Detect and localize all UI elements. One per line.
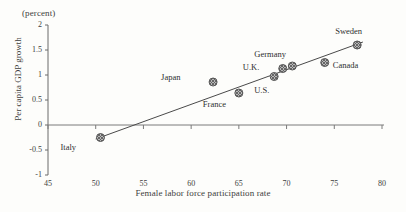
x-tick-label: 65 <box>226 179 252 188</box>
y-tick-label: 2 <box>16 20 42 29</box>
x-tick-label: 50 <box>83 179 109 188</box>
x-tick-label: 55 <box>130 179 156 188</box>
data-point <box>235 89 243 97</box>
point-label-us: U.S. <box>254 85 269 95</box>
y-tick-label: 1.5 <box>16 45 42 54</box>
x-tick-label: 80 <box>369 179 395 188</box>
y-tick-label: 0.5 <box>16 95 42 104</box>
data-point <box>96 134 104 142</box>
x-tick-label: 60 <box>178 179 204 188</box>
data-points <box>96 41 361 142</box>
y-tick-label: 1 <box>16 70 42 79</box>
point-label-japan: Japan <box>161 72 180 82</box>
y-tick-label: -0.5 <box>16 145 42 154</box>
x-tick-label: 75 <box>321 179 347 188</box>
data-point <box>321 59 329 67</box>
trend-line <box>96 42 363 139</box>
data-point <box>353 41 361 49</box>
x-tick-label: 45 <box>35 179 61 188</box>
point-label-uk: U.K. <box>243 62 260 72</box>
scatter-chart: (percent) Per capita GDP growth Female l… <box>0 0 406 212</box>
point-label-sweden: Sweden <box>335 26 362 36</box>
point-label-france: France <box>203 99 226 109</box>
point-label-germany: Germany <box>254 49 286 59</box>
point-label-canada: Canada <box>333 60 359 70</box>
y-tick-label: -1 <box>16 170 42 179</box>
data-point <box>270 73 278 81</box>
data-point <box>279 65 287 73</box>
x-tick-label: 70 <box>274 179 300 188</box>
point-label-italy: Italy <box>60 142 76 152</box>
y-tick-label: 0 <box>16 120 42 129</box>
data-point <box>209 78 217 86</box>
data-point <box>288 62 296 70</box>
